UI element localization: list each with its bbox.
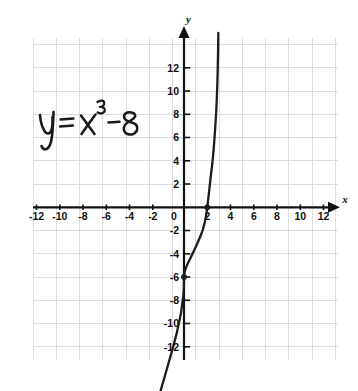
x-tick-label: -12 bbox=[29, 210, 44, 222]
x-tick-label: -4 bbox=[125, 210, 134, 222]
x-tick-label: -10 bbox=[52, 210, 67, 222]
y-tick-label: 8 bbox=[173, 108, 179, 120]
y-tick-label: -4 bbox=[170, 248, 179, 260]
y-tick-label: 2 bbox=[173, 178, 179, 190]
figure-background bbox=[0, 0, 358, 391]
y-tick-label: -8 bbox=[170, 294, 179, 306]
eq-glyph-equals-bottom bbox=[60, 126, 73, 127]
origin-label: 0 bbox=[171, 210, 177, 222]
x-tick-label: -2 bbox=[148, 210, 157, 222]
y-tick-label: 10 bbox=[167, 85, 179, 97]
y-tick-label: 6 bbox=[173, 131, 179, 143]
eq-glyph-equals-top bbox=[61, 119, 74, 120]
y-tick-label: -10 bbox=[164, 317, 179, 329]
coordinate-plane: -12 -10 -8 -6 -4 -2 2 4 6 8 10 12 0 12 1… bbox=[0, 0, 358, 391]
y-tick-label: -2 bbox=[170, 224, 179, 236]
x-intercept-point bbox=[204, 204, 210, 210]
eq-glyph-minus bbox=[109, 122, 120, 123]
x-tick-label: -6 bbox=[102, 210, 111, 222]
y-axis-label: y bbox=[184, 13, 191, 25]
x-tick-label: 12 bbox=[318, 210, 330, 222]
x-tick-label: 4 bbox=[228, 210, 234, 222]
x-tick-label: 8 bbox=[274, 210, 280, 222]
x-tick-label: 6 bbox=[251, 210, 257, 222]
x-tick-label: 10 bbox=[294, 210, 306, 222]
graph-figure: -12 -10 -8 -6 -4 -2 2 4 6 8 10 12 0 12 1… bbox=[0, 0, 358, 391]
y-tick-label: -6 bbox=[170, 271, 179, 283]
y-intercept-point bbox=[181, 274, 187, 280]
y-tick-label: 12 bbox=[167, 62, 179, 74]
x-axis-label: x bbox=[341, 193, 348, 205]
x-tick-label: -8 bbox=[78, 210, 87, 222]
y-tick-label: 4 bbox=[173, 155, 179, 167]
